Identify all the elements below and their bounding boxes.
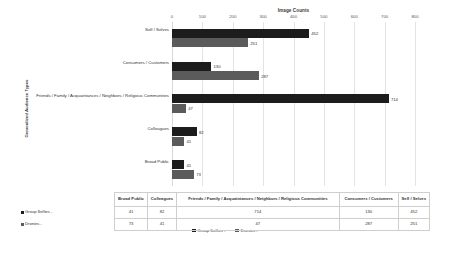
x-tick-label: 600: [351, 14, 358, 19]
table-cell: 41: [115, 207, 148, 219]
bar-value-label: 287: [261, 73, 268, 78]
bar-value-label: 73: [196, 172, 201, 177]
category-label: Broad Public: [145, 160, 169, 165]
y-axis-title: Generalized Audience Types: [24, 39, 29, 179]
bar-0: 130: [172, 62, 211, 71]
table-cell: 287: [339, 219, 398, 231]
table-column-header: Colleagues: [147, 193, 176, 207]
bar-value-label: 41: [186, 162, 191, 167]
table-cell: 452: [398, 207, 429, 219]
x-tick-label: 800: [411, 14, 418, 19]
table-column-header: Friends / Family / Acquaintances / Neigh…: [176, 193, 339, 207]
bar-value-label: 251: [250, 40, 257, 45]
table-row: Group Selfies -4182714130452: [20, 207, 430, 219]
table-cell: 73: [115, 219, 148, 231]
table-header-row: Broad PublicColleaguesFriends / Family /…: [20, 193, 430, 207]
bar-0: 452: [172, 29, 309, 38]
table-row: Dronies -734147287251: [20, 219, 430, 231]
bar-1: 73: [172, 170, 194, 179]
bar-1: 251: [172, 38, 248, 47]
bar-1: 41: [172, 137, 184, 146]
bar-value-label: 130: [213, 64, 220, 69]
category-label: Colleagues: [148, 127, 170, 132]
category-label: Self / Selves: [145, 28, 169, 33]
bar-value-label: 452: [311, 31, 318, 36]
category-label: Consumers / Customers: [123, 61, 169, 66]
table-cell: 251: [398, 219, 429, 231]
bar-0: 714: [172, 94, 389, 103]
table-column-header: Self / Selves: [398, 193, 429, 207]
table-cell: 41: [147, 219, 176, 231]
table-row-label: Group Selfies -: [25, 210, 52, 215]
bar-group: Broad Public4173: [172, 153, 415, 186]
bar-group: Friends / Family / Acquaintances / Neigh…: [172, 88, 415, 121]
data-table: Broad PublicColleaguesFriends / Family /…: [20, 192, 430, 231]
bar-0: 82: [172, 127, 197, 136]
x-tick-label: 200: [229, 14, 236, 19]
bar-value-label: 41: [186, 139, 191, 144]
x-tick-label: 700: [381, 14, 388, 19]
table-corner-cell: [20, 193, 115, 207]
bar-0: 41: [172, 160, 184, 169]
category-label: Friends / Family / Acquaintances / Neigh…: [36, 94, 169, 99]
x-axis-title: Image Counts: [172, 8, 415, 13]
table-cell: 130: [339, 207, 398, 219]
bar-1: 47: [172, 104, 186, 113]
x-tick-label: 400: [290, 14, 297, 19]
table-cell: 714: [176, 207, 339, 219]
bar-1: 287: [172, 71, 259, 80]
x-tick-label: 100: [199, 14, 206, 19]
bar-value-label: 714: [391, 96, 398, 101]
table-cell: 47: [176, 219, 339, 231]
gridline-800: [415, 22, 416, 186]
table-column-header: Broad Public: [115, 193, 148, 207]
plot-area: 0100200300400500600700800 Self / Selves4…: [172, 22, 415, 186]
bar-chart-figure: Image Counts Generalized Audience Types …: [0, 0, 450, 255]
x-tick-label: 0: [171, 14, 173, 19]
table-row-header: Group Selfies -: [20, 207, 115, 219]
bar-group: Consumers / Customers130287: [172, 55, 415, 88]
table-legend-swatch-icon: [21, 211, 24, 214]
table-column-header: Consumers / Customers: [339, 193, 398, 207]
bar-group: Colleagues8241: [172, 120, 415, 153]
bar-group: Self / Selves452251: [172, 22, 415, 55]
x-tick-label: 500: [320, 14, 327, 19]
table-cell: 82: [147, 207, 176, 219]
bar-value-label: 47: [188, 106, 193, 111]
x-tick-label: 300: [260, 14, 267, 19]
table-row-header: Dronies -: [20, 219, 115, 231]
bar-value-label: 82: [199, 129, 204, 134]
table-legend-swatch-icon: [21, 223, 24, 226]
table-row-label: Dronies -: [25, 222, 42, 227]
